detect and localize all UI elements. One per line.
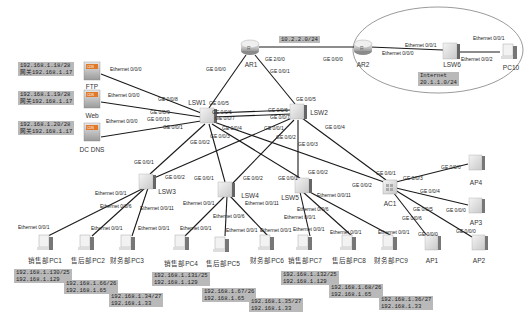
ap-ap4[interactable] [469,155,485,170]
pc1-gateway: 192.168.1.129 [16,276,70,283]
pc-8[interactable] [340,235,356,250]
ap2-label: AP2 [473,258,485,265]
svg-text:CDN: CDN [87,93,95,97]
port-pc7-eth001: Ethernet 0/0/1 [293,227,324,232]
lsw3-label: LSW3 [158,189,176,196]
pc5-label: 售后部PC5 [206,261,240,268]
pc-5[interactable] [213,237,229,252]
port-lsw5-eth0011: Ethernet 0/0/11 [317,193,351,198]
port-lsw5-ge002: GE 0/0/2 [308,170,328,175]
port-pc8-eth001: Ethernet 0/0/1 [330,230,361,235]
port-lsw6-eth001: Ethernet 0/0/1 [405,43,436,48]
pc6-label: 财务部PC6 [250,258,284,265]
network-label-10-2-2-0: 10.2.2.0/24 [279,36,320,43]
port-lsw5-ge001: GE 0/0/1 [278,176,298,181]
switch-lsw6[interactable] [443,43,460,59]
port-pc10-eth001: Ethernet 0/0/1 [473,36,504,41]
lsw1-label: LSW1 [188,100,206,107]
port-lsw2-ge002: GE 0/0/2 [276,135,296,140]
port-ar1-ge000: GE 0/0/0 [206,67,226,72]
switch-lsw4[interactable] [218,182,235,197]
pc-1[interactable] [37,235,53,250]
pc9-gateway: 192.168.1.33 [381,303,431,310]
svg-text:R: R [247,45,251,51]
pc-4[interactable] [173,235,189,250]
server-web[interactable]: CDN [84,90,100,108]
ap4-label: AP4 [470,180,482,187]
ftp-gateway: 网关192.168.1.17 [20,69,72,76]
router-ar1[interactable]: R [241,40,259,55]
port-lsw1-ge005: GE 0/0/5 [209,101,229,106]
internet-subnet: 20.1.1.0/24 [420,79,457,86]
pc8-ip-box: 192.168.1.68/26192.168.1.65 [329,284,383,298]
server-ftp[interactable]: CDN [84,62,100,80]
port-lsw4-ge001: GE 0/0/1 [194,176,214,181]
dns-ip: 192.168.1.20/28 [20,121,72,128]
port-lsw2-ge007: GE 0/0/7 [270,115,290,120]
server-dc-dns[interactable]: CDN [84,123,100,141]
pc1-ip: 192.168.1.130/25 [16,269,70,276]
ftp-ip: 192.168.1.18/28 [20,62,72,69]
ap-ap2[interactable] [472,235,488,250]
pc4-ip-box: 192.168.1.131/25192.168.1.129 [152,272,210,286]
port-ac1-ge002: GE 0/0/2 [352,183,372,188]
port-lsw1-ge0010: GE 0/0/10 [147,117,170,122]
port-lsw1-ge007: GE 0/0/7 [215,116,235,121]
pc-3[interactable] [119,235,135,250]
port-lsw1-ge002: GE 0/0/2 [190,140,210,145]
pc4-label: 销售部PC4 [164,261,198,268]
port-lsw1-ge003: GE 0/0/3 [210,134,230,139]
port-ac1-ge006: GE 0/0/6 [402,216,422,221]
pc8-label: 售后部PC8 [332,258,366,265]
internet-label: Internet 20.1.1.0/24 [418,72,459,86]
port-lsw2-ge004: GE 0/0/4 [325,125,345,130]
pc5-gateway: 192.168.1.65 [204,295,254,302]
port-ar1-ge200: GE 2/0/0 [265,57,285,62]
switch-lsw3[interactable] [139,174,156,189]
port-lsw2-ge001: GE 0/0/1 [264,126,284,131]
ap1-label: AP1 [426,258,438,265]
ap3-label: AP3 [470,220,482,227]
port-ar1-ge001: GE 0/0/1 [270,69,290,74]
port-lsw4-eth006: Ethernet 0/0/6 [213,214,244,219]
port-pc3-eth001: Ethernet 0/0/1 [138,226,169,231]
ap-ap3[interactable] [469,198,485,213]
ar1-label: AR1 [245,62,258,69]
port-lsw2-ge003: GE 0/0/3 [298,142,318,147]
port-lsw2-ge006: GE 0/0/6 [268,108,288,113]
port-lsw4-eth0011: Ethernet 0/0/11 [245,201,279,206]
pc8-ip: 192.168.1.68/26 [331,284,381,291]
access-controller-ac1[interactable] [383,180,397,194]
pc4-ip: 192.168.1.131/25 [154,272,208,279]
pc6-gateway: 192.168.1.33 [251,305,301,312]
pc-2[interactable] [78,235,94,250]
pc9-ip: 192.168.1.36/27 [381,296,431,303]
pc-6[interactable] [258,235,274,250]
pc3-ip-box: 192.168.1.34/27192.168.1.33 [109,293,163,307]
ac1-label: AC1 [384,201,397,208]
port-ftp-eth000: Ethernet 0/0/0 [110,67,141,72]
ftp-ip-box: 192.168.1.18/28 网关192.168.1.17 [18,62,74,76]
port-lsw1-ge004: GE 0/0/4 [222,126,242,131]
port-lsw1-ge009: GE 0/0/9 [150,110,170,115]
port-ac1-ge005: GE 0/0/5 [413,207,433,212]
pc2-ip-box: 192.168.1.66/26192.168.1.65 [64,280,118,294]
pc6-ip: 192.168.1.35/27 [251,298,301,305]
router-ar2[interactable]: R [354,40,372,55]
pc6-ip-box: 192.168.1.35/27192.168.1.33 [249,298,303,312]
ap-ap1[interactable] [425,235,441,250]
pc-9[interactable] [381,235,397,250]
port-lsw5-eth001: Ethernet 0/0/1 [284,215,315,220]
pc-7[interactable] [296,235,312,250]
pc4-gateway: 192.168.1.129 [154,279,208,286]
port-lsw3-ge002: GE 0/0/2 [165,175,185,180]
pc3-gateway: 192.168.1.33 [111,300,161,307]
port-pc1-eth001: Ethernet 0/0/1 [18,225,49,230]
pc-10[interactable] [501,44,517,59]
switch-lsw2[interactable] [290,104,307,119]
pc2-ip: 192.168.1.66/26 [66,280,116,287]
pc8-gateway: 192.168.1.65 [331,291,381,298]
port-ar2-ge000: GE 0/0/0 [323,57,343,62]
pc1-label: 销售部PC1 [28,258,62,265]
svg-text:R: R [360,45,364,51]
